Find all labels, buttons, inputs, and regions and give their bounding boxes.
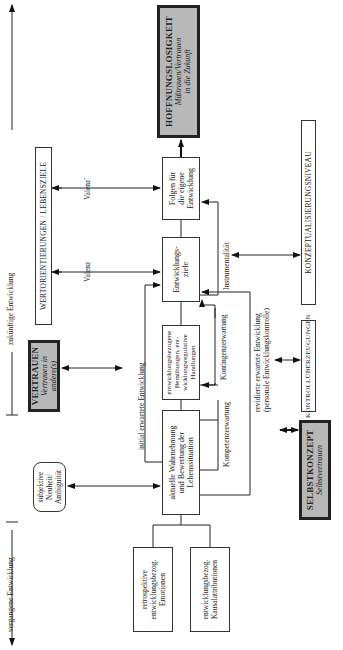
retrospektive-box: retrospektive entwicklungsbezog. Emotion…	[133, 547, 173, 632]
subjektive-neuheit-box: subjektive Neuheit/ Ambiguität	[33, 462, 66, 512]
wahrnehmung-box: aktuelle Wahrnehmung und Bewertung der L…	[162, 410, 200, 515]
konzeptualisierung-box: KONZEPTUALISIERUNGSNIVEAU	[301, 120, 316, 305]
konzeptualisierung-title: KONZEPTUALISIERUNGSNIVEAU	[304, 151, 313, 274]
wahrnehmung-line2: und Bewertung der	[177, 432, 186, 493]
wertorientierungen-title: WERTORIENTIERUNGEN / LEBENSZIELE	[39, 162, 48, 310]
retrospektive-line1: retrospektive	[140, 570, 149, 609]
hoffnungslosigkeit-box: HOFFNUNGSLOSIGKEIT Mißtrauen/Vertrauen i…	[157, 5, 200, 138]
folgen-line2: die eigene	[177, 172, 186, 205]
hoffnungslosigkeit-sub1: Mißtrauen/Vertrauen	[174, 38, 183, 106]
kausal-line1: entwicklungsbezog.	[201, 560, 210, 620]
entwicklungsziele-line1: Entwicklungs-	[172, 246, 181, 293]
valenz-label: Valenz	[83, 262, 92, 282]
initial-erwartete-label: initial erwartete Entwicklung	[137, 363, 146, 450]
wertorientierungen-box: WERTORIENTIERUNGEN / LEBENSZIELE	[35, 147, 52, 325]
entwicklungsziele-box: Entwicklungs- ziele	[162, 237, 200, 302]
subjektive-line3: Ambiguität	[54, 470, 63, 504]
past-development-label: vergangene Entwicklung	[6, 557, 15, 632]
bemuehungen-box: entwicklungsbezogene Bemühungen, ent- wi…	[162, 325, 200, 400]
kompetenz-label: Kompetenzerwartung	[222, 402, 231, 467]
diagram-canvas: vergangene Entwicklung zukünftige Entwic…	[0, 0, 343, 650]
subjektive-line2: Neuheit/	[45, 474, 54, 500]
retrospektive-line3: Emotionen	[158, 573, 167, 606]
bemuehungen-line3: wicklungsregulative	[181, 334, 189, 391]
hoffnungslosigkeit-title: HOFFNUNGSLOSIGKEIT	[165, 16, 174, 127]
kausalattributionen-box: entwicklungsbezog. Kausalattributionen	[190, 547, 230, 632]
selbstkonzept-sub: Selbstvertrauen	[315, 445, 324, 495]
selbstkonzept-title: SELBSTKONZEPT	[306, 430, 315, 511]
revidiert-label-2: (personale Entwicklungskontrolle)	[262, 308, 271, 412]
bemuehungen-line4: Handlungen	[189, 345, 197, 379]
hoffnungslosigkeit-sub2: in die Zukunft	[183, 49, 192, 93]
vertrauen-box: VERTRAUEN Vertrauen in andere(s)	[28, 340, 60, 412]
vertrauen-sub: Vertrauen in andere(s)	[40, 343, 58, 409]
selbstkonzept-box: SELBSTKONZEPT Selbstvertrauen	[299, 420, 331, 520]
bemuehungen-line1: entwicklungsbezogene	[165, 331, 173, 395]
future-development-label: zukünftige Entwicklung	[6, 273, 15, 345]
retrospektive-line2: entwicklungsbezog.	[149, 560, 158, 620]
subjektive-line1: subjektive	[36, 472, 45, 503]
valenz-prime-label: Valenz'	[83, 178, 92, 200]
entwicklungsziele-line2: ziele	[181, 262, 190, 277]
vertrauen-title: VERTRAUEN	[31, 347, 40, 406]
revidiert-label-1: revidierte erwartete Entwicklung	[253, 313, 262, 412]
folgen-line1: Folgen für	[168, 172, 177, 206]
kontrolle-title: KONTROLLÜBERZEUGUNGEN	[304, 314, 313, 418]
folgen-line3: Entwicklung	[186, 168, 195, 209]
instrumentalitaet-label: Instrumentalität	[222, 243, 231, 291]
kontrolle-box: KONTROLLÜBERZEUGUNGEN	[301, 320, 316, 412]
wahrnehmung-line1: aktuelle Wahrnehmung	[168, 425, 177, 499]
kausal-line2: Kausalattributionen	[210, 560, 219, 619]
folgen-box: Folgen für die eigene Entwicklung	[162, 157, 200, 220]
bemuehungen-line2: Bemühungen, ent-	[173, 337, 181, 389]
kontingenz-label: Kontingenzerwartung	[219, 315, 228, 380]
wahrnehmung-line3: Lebenssituation	[186, 437, 195, 488]
